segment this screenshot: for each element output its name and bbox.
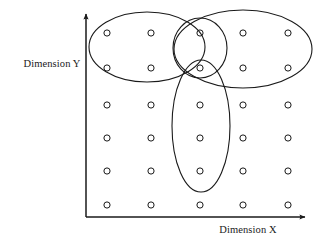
axes-group [86,14,305,217]
data-point [104,202,110,208]
cluster-scatter-figure: Dimension Y Dimension X [0,0,332,246]
data-point [240,168,246,174]
data-point [148,65,154,71]
x-axis-label: Dimension X [219,224,277,235]
data-points-group [104,30,291,208]
data-point [197,65,203,71]
data-point [148,168,154,174]
data-point [197,135,203,141]
data-point [285,202,291,208]
data-point [240,65,246,71]
data-point [285,65,291,71]
data-point [240,102,246,108]
data-point [104,65,110,71]
cluster-ellipses-group [89,10,312,192]
data-point [240,30,246,36]
data-point [240,202,246,208]
data-point [240,135,246,141]
data-point [285,102,291,108]
data-point [197,168,203,174]
data-point [197,102,203,108]
data-point [104,135,110,141]
data-point [148,30,154,36]
data-point [104,102,110,108]
data-point [148,135,154,141]
center-small-ellipse [173,18,227,78]
data-point [285,135,291,141]
data-point [104,168,110,174]
data-point [197,202,203,208]
figure-container: Dimension Y Dimension X [0,0,332,246]
data-point [148,102,154,108]
data-point [285,30,291,36]
right-horizontal-ellipse [174,10,312,88]
y-axis-label: Dimension Y [24,58,81,69]
data-point [148,202,154,208]
data-point [285,168,291,174]
data-point [104,30,110,36]
